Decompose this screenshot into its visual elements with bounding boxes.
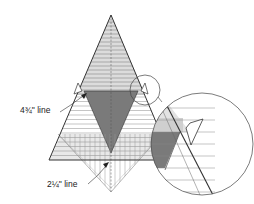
- upper-line-callout: 4¾" line: [20, 93, 87, 115]
- ruler-triangle-diagram: 4¾" line 2¼" line: [0, 0, 254, 204]
- lower-line-callout: 2¼" line: [47, 162, 109, 189]
- lower-line-label: 2¼" line: [47, 179, 78, 189]
- upper-line-label: 4¾" line: [20, 105, 51, 115]
- magnifier-connector: [158, 97, 162, 102]
- detail-zoom: [150, 93, 253, 195]
- lower-arrow-icon: [103, 162, 109, 168]
